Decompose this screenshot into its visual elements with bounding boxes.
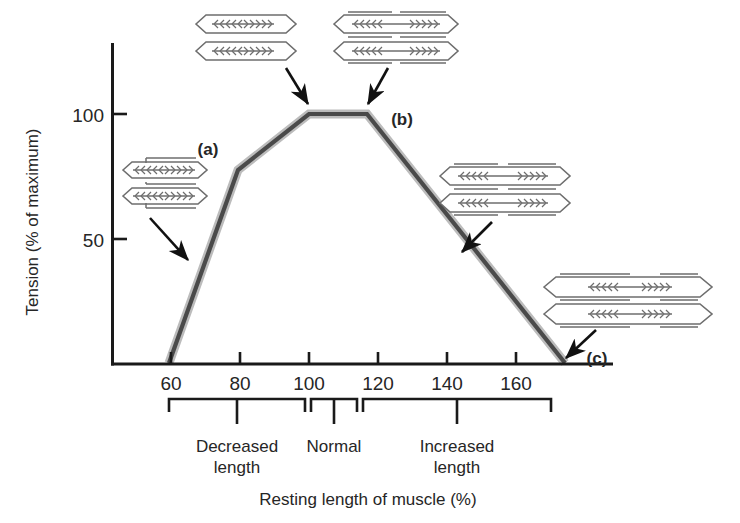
x-tick-label-60: 60 <box>160 373 181 394</box>
point-label-c: (c) <box>587 349 608 368</box>
sarcomere-overcontracted-left <box>123 158 207 208</box>
x-tick-label-100: 100 <box>293 373 325 394</box>
group-bracket-normal <box>311 399 357 424</box>
group-bracket-decreased <box>169 399 305 424</box>
x-tick-label-120: 120 <box>362 373 394 394</box>
tension-curve-halo <box>169 114 565 363</box>
leader-arrow-overcontracted <box>150 218 188 260</box>
tension-curve <box>169 114 565 363</box>
point-label-b: (b) <box>391 110 413 129</box>
group-label-increased-line1: Increased <box>420 437 495 456</box>
sarcomere-stretched-right <box>440 164 570 215</box>
x-tick-label-160: 160 <box>500 373 532 394</box>
y-axis-title: Tension (% of maximum) <box>23 128 42 315</box>
x-tick-label-80: 80 <box>229 373 250 394</box>
sarcomere-overstretched <box>544 274 712 327</box>
group-label-decreased-line1: Decreased <box>196 437 278 456</box>
y-tick-label-100: 100 <box>72 105 104 126</box>
x-axis-title: Resting length of muscle (%) <box>259 490 476 509</box>
leader-arrow-optimal-left <box>286 68 308 104</box>
point-label-a: (a) <box>198 140 219 159</box>
group-label-increased-line2: length <box>434 458 480 477</box>
group-label-normal-line1: Normal <box>307 437 362 456</box>
tension-curve-core <box>169 114 565 363</box>
y-tick-label-50: 50 <box>83 230 104 251</box>
sarcomere-optimal-top-left <box>196 15 296 60</box>
leader-arrow-optimal-right <box>368 68 388 104</box>
sarcomere-optimal-top-right <box>334 12 458 63</box>
group-label-decreased-line2: length <box>214 458 260 477</box>
figure-canvas: 100 50 60 80 100 120 140 160 Tension (% … <box>0 0 740 523</box>
group-bracket-increased <box>363 399 551 424</box>
x-tick-label-140: 140 <box>431 373 463 394</box>
